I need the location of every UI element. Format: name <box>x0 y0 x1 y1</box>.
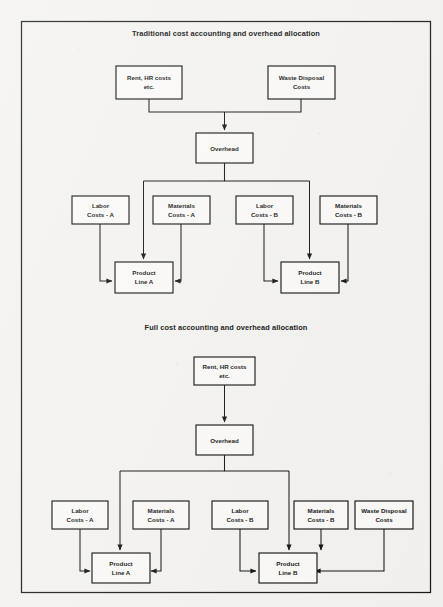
node-labor-costs-b-top-line1: Labor <box>256 202 274 209</box>
node-materials-costs-b-bottom[interactable]: Materials Costs - B <box>294 501 348 529</box>
node-materials-costs-b-bottom-line2: Costs - B <box>307 516 335 523</box>
node-waste-disposal-costs-top-line2: Costs <box>293 83 311 90</box>
node-labor-costs-b-bottom-line1: Labor <box>231 507 249 514</box>
node-overhead-bottom-label: Overhead <box>210 437 239 444</box>
node-materials-costs-a-bottom-line1: Materials <box>148 507 175 514</box>
full-cost-diagram-group: Full cost accounting and overhead alloca… <box>52 323 413 583</box>
node-product-line-b-bottom-line2: Line B <box>279 569 298 576</box>
node-product-line-b-bottom[interactable]: Product Line B <box>259 553 317 583</box>
node-materials-costs-b-bottom-line1: Materials <box>308 507 335 514</box>
node-labor-costs-a-bottom-line1: Labor <box>71 507 89 514</box>
node-materials-costs-a-top-line2: Costs - A <box>168 211 195 218</box>
edge-labor-b-to-product-b <box>264 224 278 281</box>
node-product-line-a-top[interactable]: Product Line A <box>115 262 173 293</box>
edge-labor-a-to-product-a-bottom <box>80 529 90 571</box>
node-labor-costs-a-top-line2: Costs - A <box>87 211 114 218</box>
node-product-line-b-top-line2: Line B <box>301 278 320 285</box>
node-labor-costs-a-bottom-line2: Costs - A <box>67 516 94 523</box>
full-cost-diagram-title: Full cost accounting and overhead alloca… <box>145 323 308 332</box>
node-materials-costs-a-bottom-line2: Costs - A <box>148 516 175 523</box>
cost-accounting-diagram: Traditional cost accounting and overhead… <box>0 0 443 607</box>
node-waste-disposal-costs-top-line1: Waste Disposal <box>279 74 325 81</box>
node-product-line-a-top-line2: Line A <box>135 278 154 285</box>
node-labor-costs-b-bottom-line2: Costs - B <box>226 516 254 523</box>
node-waste-disposal-costs-bottom[interactable]: Waste Disposal Costs <box>355 501 413 529</box>
node-product-line-a-top-line1: Product <box>132 269 155 276</box>
edge-rent-to-overhead <box>149 99 225 112</box>
node-materials-costs-a-bottom[interactable]: Materials Costs - A <box>133 501 189 529</box>
node-materials-costs-b-top[interactable]: Materials Costs - B <box>320 196 377 224</box>
node-product-line-a-bottom-line2: Line A <box>112 569 131 576</box>
node-labor-costs-a-top-line1: Labor <box>92 202 110 209</box>
node-labor-costs-a-top[interactable]: Labor Costs - A <box>72 196 129 224</box>
node-overhead-top-label: Overhead <box>210 145 239 152</box>
edge-materials-a-to-product-a-bottom <box>151 529 161 571</box>
traditional-diagram-group: Traditional cost accounting and overhead… <box>72 29 377 293</box>
node-product-line-a-bottom-line1: Product <box>109 560 132 567</box>
node-overhead-bottom[interactable]: Overhead <box>196 425 253 455</box>
edge-waste-to-product-b-bottom <box>315 529 384 571</box>
node-product-line-b-top-line1: Product <box>298 269 321 276</box>
node-materials-costs-b-top-line1: Materials <box>335 202 362 209</box>
traditional-diagram-title: Traditional cost accounting and overhead… <box>132 29 320 38</box>
node-product-line-b-top[interactable]: Product Line B <box>281 262 339 293</box>
node-rent-hr-costs-bottom[interactable]: Rent, HR costs etc. <box>194 357 255 385</box>
node-materials-costs-a-top-line1: Materials <box>168 202 195 209</box>
node-labor-costs-b-top[interactable]: Labor Costs - B <box>236 196 293 224</box>
node-waste-disposal-costs-bottom-line2: Costs <box>375 516 393 523</box>
node-materials-costs-a-top[interactable]: Materials Costs - A <box>153 196 210 224</box>
node-labor-costs-b-bottom[interactable]: Labor Costs - B <box>212 501 268 529</box>
node-waste-disposal-costs-bottom-line1: Waste Disposal <box>361 507 407 514</box>
edge-materials-b-to-product-b <box>341 224 348 281</box>
node-rent-hr-costs-top-line2: etc. <box>144 83 155 90</box>
edge-labor-a-to-product-a <box>100 224 112 281</box>
edge-waste-to-overhead <box>225 99 302 112</box>
node-rent-hr-costs-top-line1: Rent, HR costs <box>127 74 172 81</box>
node-rent-hr-costs-bottom-line1: Rent, HR costs <box>202 363 247 370</box>
node-labor-costs-a-bottom[interactable]: Labor Costs - A <box>52 501 108 529</box>
edge-labor-b-to-product-b-bottom <box>240 529 256 571</box>
node-product-line-a-bottom[interactable]: Product Line A <box>92 553 150 583</box>
node-labor-costs-b-top-line2: Costs - B <box>251 211 279 218</box>
node-rent-hr-costs-top[interactable]: Rent, HR costs etc. <box>116 66 182 99</box>
edge-materials-a-to-product-a <box>175 224 181 281</box>
node-rent-hr-costs-bottom-line2: etc. <box>219 372 230 379</box>
node-materials-costs-b-top-line2: Costs - B <box>335 211 363 218</box>
node-product-line-b-bottom-line1: Product <box>276 560 299 567</box>
node-overhead-top[interactable]: Overhead <box>196 133 253 163</box>
node-waste-disposal-costs-top[interactable]: Waste Disposal Costs <box>268 66 335 99</box>
